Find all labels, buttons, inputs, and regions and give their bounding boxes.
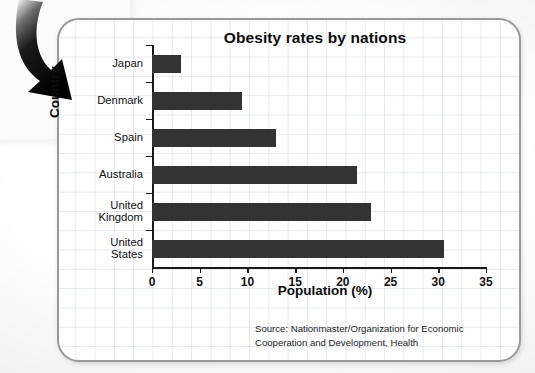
y-tick-label: United Kingdom [53, 199, 143, 224]
x-tick-label: 30 [423, 275, 453, 289]
bar [152, 92, 242, 110]
y-tick-label: Spain [53, 131, 143, 144]
x-tick-label: 25 [376, 275, 406, 289]
x-tick [343, 267, 344, 273]
bar [152, 55, 181, 73]
y-tick-label: United States [53, 236, 143, 261]
y-tick-label: Japan [53, 57, 143, 70]
x-tick [486, 267, 487, 273]
y-tick-label: Australia [53, 168, 143, 181]
source-note: Source: Nationmaster/Organization for Ec… [255, 322, 495, 349]
y-tick [146, 82, 152, 83]
x-tick [295, 267, 296, 273]
plot-area: JapanDenmarkSpainAustraliaUnited Kingdom… [152, 45, 486, 267]
y-axis-title: Country [47, 66, 62, 118]
bar [152, 240, 444, 258]
bar-chart: Obesity rates by nations Country Populat… [0, 0, 535, 373]
x-tick [438, 267, 439, 273]
bar [152, 129, 276, 147]
x-tick-label: 15 [280, 275, 310, 289]
y-tick [146, 119, 152, 120]
x-axis-line [152, 267, 486, 269]
y-tick [146, 230, 152, 231]
y-axis-line [152, 45, 154, 267]
x-tick [200, 267, 201, 273]
x-tick [391, 267, 392, 273]
x-tick [247, 267, 248, 273]
x-tick-label: 10 [232, 275, 262, 289]
x-tick-label: 35 [471, 275, 501, 289]
x-tick-label: 5 [185, 275, 215, 289]
y-tick [146, 156, 152, 157]
bar [152, 203, 371, 221]
x-tick-label: 20 [328, 275, 358, 289]
x-tick-label: 0 [137, 275, 167, 289]
y-tick [146, 193, 152, 194]
y-tick [146, 45, 152, 46]
bar [152, 166, 357, 184]
x-tick [152, 267, 153, 273]
y-tick-label: Denmark [53, 94, 143, 107]
